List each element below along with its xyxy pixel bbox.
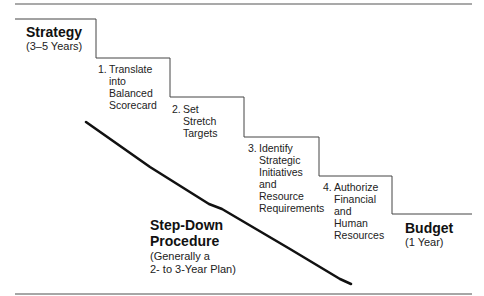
procedure-title: Procedure [150,233,236,249]
step-3-text: Resource [248,190,324,202]
step-1-text: Translate [109,63,152,75]
step-3-text: Identify [259,142,293,154]
step-2-number: 2. [172,103,183,115]
procedure-label: Step-Down Procedure (Generally a 2- to 3… [150,217,236,276]
budget-title: Budget [405,220,453,236]
step-4-text: and [323,205,384,217]
budget-label: Budget (1 Year) [405,220,453,249]
step-3-text: and [248,178,324,190]
strategy-duration: (3–5 Years) [26,40,82,53]
step-2-text: Stretch [172,115,217,127]
procedure-title: Step-Down [150,217,236,233]
step-1: 1.Translate into Balanced Scorecard [98,63,157,111]
step-4-text: Financial [323,193,384,205]
step-4-text: Resources [323,229,384,241]
step-3: 3.Identify Strategic Initiatives and Res… [248,142,324,214]
step-4-text: Human [323,217,384,229]
step-4-number: 4. [323,181,334,193]
staircase [15,19,472,214]
procedure-note: 2- to 3-Year Plan) [150,263,236,276]
step-3-text: Strategic [248,154,324,166]
budget-duration: (1 Year) [405,236,453,249]
step-2: 2.Set Stretch Targets [172,103,217,139]
step-3-text: Requirements [248,202,324,214]
step-1-text: Scorecard [98,99,157,111]
strategy-label: Strategy (3–5 Years) [26,24,82,53]
step-2-text: Targets [172,127,217,139]
step-1-text: into [98,75,157,87]
step-4-text: Authorize [334,181,378,193]
step-1-number: 1. [98,63,109,75]
step-1-text: Balanced [98,87,157,99]
strategy-title: Strategy [26,24,82,40]
step-3-text: Initiatives [248,166,324,178]
step-3-number: 3. [248,142,259,154]
procedure-note: (Generally a [150,250,236,263]
step-4: 4.Authorize Financial and Human Resource… [323,181,384,241]
step-2-text: Set [183,103,199,115]
